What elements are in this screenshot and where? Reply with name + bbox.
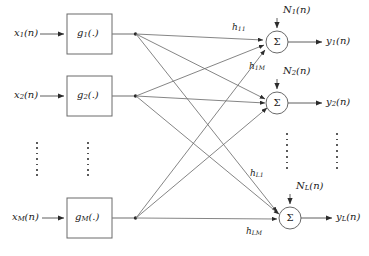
edge-g1-to-sum1	[136, 34, 263, 40]
ellipsis-summers	[285, 133, 289, 169]
noise-label-N1: N1(n)	[283, 5, 310, 16]
input-label-x1: x1(n)	[14, 28, 38, 39]
summer-circles	[266, 31, 301, 229]
edge-gM-to-sum2	[136, 108, 267, 218]
summer-glyph-sum1: Σ	[272, 37, 282, 47]
noise-label-NL: NL(n)	[296, 181, 324, 192]
summer-glyph-sum2: Σ	[272, 98, 282, 108]
gain-label-hLM: hLM	[246, 227, 262, 236]
input-label-xM: xM(n)	[12, 212, 39, 223]
noise-label-N2: N2(n)	[283, 66, 310, 77]
input-label-x2: x2(n)	[14, 90, 38, 101]
gain-label-h11: h11	[232, 23, 246, 32]
block-label-g2: g2(.)	[77, 90, 99, 101]
block-rects	[67, 14, 112, 238]
edge-gM-to-sumL	[136, 218, 277, 219]
figure-canvas: x1(n) x2(n) xM(n) g1(.) g2(.) gM(.) Σ Σ …	[0, 0, 369, 256]
gain-label-h1M: h1M	[249, 62, 265, 71]
output-label-y2: y2(n)	[326, 97, 350, 108]
block-label-g1: g1(.)	[77, 28, 99, 39]
block-label-gM: gM(.)	[75, 212, 99, 223]
output-label-yL: yL(n)	[336, 212, 360, 223]
ellipsis-inputs	[35, 142, 39, 176]
edge-g1-to-sumL	[136, 34, 277, 212]
gain-label-hL1: hL1	[250, 169, 264, 178]
summer-glyph-sumL: Σ	[285, 213, 295, 223]
block-output-stubs	[112, 34, 136, 218]
ellipsis-blocks	[86, 142, 90, 176]
diagram-svg	[0, 0, 369, 256]
fanout-nodes	[134, 32, 137, 219]
ellipsis-outputs	[335, 133, 339, 169]
input-arrows	[40, 34, 64, 218]
edge-g1-to-sum2	[136, 34, 265, 99]
edge-g2-to-sumL	[136, 96, 279, 214]
output-label-y1: y1(n)	[326, 36, 350, 47]
edge-g2-to-sum2	[136, 96, 265, 103]
edge-gM-to-sum1	[136, 50, 265, 218]
